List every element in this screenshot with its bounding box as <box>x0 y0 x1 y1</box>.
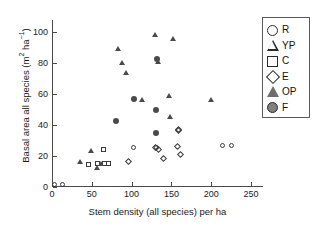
y-axis-title-mid: ha <box>20 39 31 52</box>
data-point-E <box>161 156 166 161</box>
triangle-filled-icon <box>266 84 281 100</box>
triangle-open-icon <box>266 38 281 54</box>
square-open-icon <box>266 53 281 69</box>
data-point-F <box>153 107 159 113</box>
legend-label-e: E <box>282 71 289 83</box>
legend-item-e[interactable]: E <box>266 69 310 85</box>
plot-area <box>52 20 263 187</box>
x-tick-label-250: 250 <box>236 190 266 199</box>
legend-item-op[interactable]: OP <box>266 84 310 100</box>
x-tick-label-50: 50 <box>77 190 107 199</box>
y-axis-title-sup-area: 2 <box>18 53 25 57</box>
data-point-F <box>113 118 119 124</box>
data-point-E <box>126 159 131 164</box>
data-point-R <box>220 143 225 148</box>
x-tick-label-0: 0 <box>37 190 67 199</box>
data-point-R <box>131 145 136 150</box>
data-point-OP <box>208 97 214 102</box>
data-point-C <box>101 147 106 152</box>
legend-label-op: OP <box>282 86 296 98</box>
legend-item-yp[interactable]: YP <box>266 38 310 54</box>
legend-box: RYPCEOPF <box>262 17 310 118</box>
data-point-R <box>229 143 234 148</box>
data-point-C <box>86 162 91 167</box>
legend-item-c[interactable]: C <box>266 53 310 69</box>
legend-label-f: F <box>282 102 288 114</box>
circle-filled-icon <box>266 100 281 116</box>
data-point-F <box>131 96 137 102</box>
legend-item-r[interactable]: R <box>266 22 310 38</box>
y-tick-0 <box>53 187 57 188</box>
y-axis-title-sup-inv: −1 <box>18 31 25 39</box>
data-point-OP <box>88 148 94 153</box>
data-point-OP <box>77 159 83 164</box>
data-point-OP <box>123 70 129 75</box>
data-point-E <box>175 144 180 149</box>
x-tick-label-200: 200 <box>196 190 226 199</box>
data-point-OP <box>170 36 176 41</box>
scatter-plot-figure: 020406080100 050100150200250 Basal area … <box>0 0 314 229</box>
data-point-F <box>154 56 160 62</box>
data-point-E <box>156 147 161 152</box>
data-point-E <box>178 152 183 157</box>
data-point-OP <box>115 46 121 51</box>
data-point-OP <box>119 60 125 65</box>
x-tick-label-100: 100 <box>117 190 147 199</box>
data-point-OP <box>167 114 173 119</box>
y-axis-title-end: ) <box>20 28 31 31</box>
y-axis-title: Basal area all species (m2 ha−1) <box>20 11 31 181</box>
data-point-C <box>106 161 111 166</box>
x-tick-label-150: 150 <box>156 190 186 199</box>
data-point-OP <box>94 165 100 170</box>
data-point-E <box>176 128 181 133</box>
data-point-OP <box>98 161 104 166</box>
x-axis-title: Stem density (all species) per ha <box>52 206 263 217</box>
data-point-OP <box>166 93 172 98</box>
legend-item-f[interactable]: F <box>266 100 310 116</box>
legend-label-c: C <box>282 55 289 67</box>
legend-label-r: R <box>282 24 289 36</box>
data-point-F <box>153 130 159 136</box>
data-point-R <box>60 182 65 187</box>
circle-open-icon <box>266 22 281 38</box>
data-point-OP <box>139 97 145 102</box>
diamond-open-icon <box>266 69 281 85</box>
data-point-OP <box>152 32 158 37</box>
legend-label-yp: YP <box>282 40 295 52</box>
y-axis-title-text: Basal area all species (m <box>20 57 31 163</box>
data-point-R <box>52 182 57 187</box>
